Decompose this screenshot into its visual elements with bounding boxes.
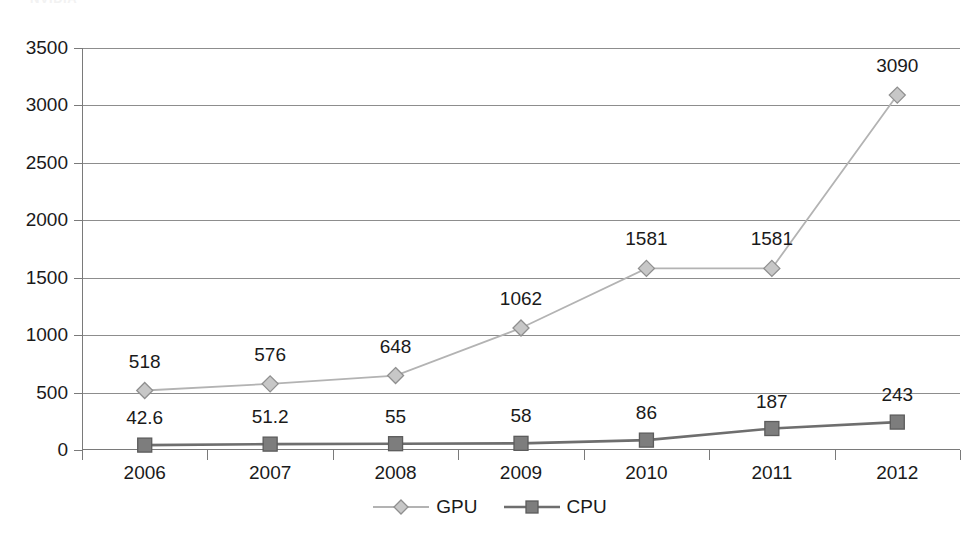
- y-tick-label: 3000: [0, 94, 68, 116]
- y-tick-label: 0: [0, 439, 68, 461]
- x-tick-label: 2008: [336, 462, 456, 484]
- chart-legend: GPU CPU: [0, 496, 980, 518]
- data-label-gpu: 1581: [712, 228, 832, 250]
- y-tick-label: 500: [0, 382, 68, 404]
- data-label-gpu: 576: [210, 344, 330, 366]
- x-tick-mark: [835, 450, 836, 460]
- data-label-gpu: 1581: [586, 228, 706, 250]
- gridline: [82, 105, 960, 106]
- y-tick-mark: [74, 278, 83, 279]
- legend-label-gpu: GPU: [436, 496, 477, 518]
- data-label-cpu: 58: [461, 405, 581, 427]
- y-tick-mark: [74, 335, 83, 336]
- gridline: [82, 48, 960, 49]
- x-tick-label: 2012: [837, 462, 957, 484]
- x-tick-mark: [82, 450, 83, 460]
- y-tick-label: 1000: [0, 324, 68, 346]
- chart-screenshot: NVIDIA 0500100015002000250030003500 2006…: [0, 0, 980, 542]
- x-tick-label: 2009: [461, 462, 581, 484]
- y-tick-mark: [74, 393, 83, 394]
- cropped-title-remnant: NVIDIA: [30, 0, 150, 3]
- y-tick-label: 1500: [0, 267, 68, 289]
- x-tick-mark: [207, 450, 208, 460]
- data-label-gpu: 518: [85, 351, 205, 373]
- x-tick-label: 2011: [712, 462, 832, 484]
- y-tick-mark: [74, 163, 83, 164]
- x-tick-mark: [333, 450, 334, 460]
- data-label-gpu: 1062: [461, 288, 581, 310]
- gridline: [82, 335, 960, 336]
- x-tick-label: 2007: [210, 462, 330, 484]
- data-label-cpu: 51.2: [210, 406, 330, 428]
- data-label-cpu: 42.6: [85, 407, 205, 429]
- x-tick-mark: [458, 450, 459, 460]
- y-tick-label: 2000: [0, 209, 68, 231]
- gridline: [82, 220, 960, 221]
- x-tick-mark: [584, 450, 585, 460]
- gridline: [82, 163, 960, 164]
- diamond-marker-icon: [373, 497, 429, 517]
- x-tick-mark: [709, 450, 710, 460]
- data-label-cpu: 243: [837, 384, 957, 406]
- legend-item-gpu[interactable]: GPU: [373, 496, 477, 518]
- legend-item-cpu[interactable]: CPU: [504, 496, 607, 518]
- data-label-cpu: 187: [712, 391, 832, 413]
- gridline: [82, 278, 960, 279]
- y-tick-mark: [74, 48, 83, 49]
- square-marker-icon: [504, 497, 560, 517]
- data-label-cpu: 86: [586, 402, 706, 424]
- y-tick-mark: [74, 220, 83, 221]
- x-tick-mark: [960, 450, 961, 460]
- x-tick-label: 2006: [85, 462, 205, 484]
- data-label-cpu: 55: [336, 406, 456, 428]
- data-label-gpu: 3090: [837, 55, 957, 77]
- x-tick-label: 2010: [586, 462, 706, 484]
- y-tick-label: 3500: [0, 37, 68, 59]
- legend-label-cpu: CPU: [567, 496, 607, 518]
- y-tick-mark: [74, 105, 83, 106]
- data-label-gpu: 648: [336, 336, 456, 358]
- y-tick-label: 2500: [0, 152, 68, 174]
